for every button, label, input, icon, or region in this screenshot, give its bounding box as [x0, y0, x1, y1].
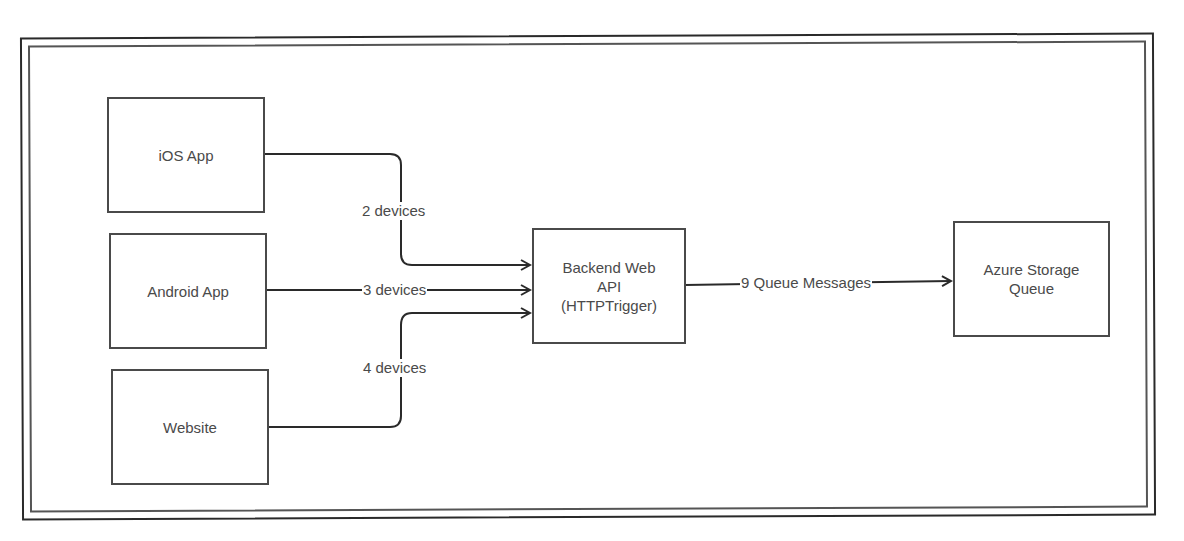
node-azure-storage-queue-label: Azure Storage Queue [984, 260, 1080, 298]
edge-label-android: 3 devices [362, 281, 427, 299]
node-ios-app: iOS App [107, 97, 265, 213]
node-android-app: Android App [109, 233, 267, 349]
node-website: Website [111, 369, 269, 485]
node-ios-app-label: iOS App [158, 146, 213, 165]
edge-label-ios: 2 devices [361, 202, 426, 220]
edge-label-website: 4 devices [362, 359, 427, 377]
node-website-label: Website [163, 418, 217, 437]
node-azure-storage-queue: Azure Storage Queue [953, 221, 1110, 337]
node-backend-web-api: Backend Web API (HTTPTrigger) [532, 228, 686, 344]
node-backend-web-api-label: Backend Web API (HTTPTrigger) [561, 258, 657, 315]
edge-label-backend-azure: 9 Queue Messages [740, 274, 872, 292]
node-android-app-label: Android App [147, 282, 229, 301]
